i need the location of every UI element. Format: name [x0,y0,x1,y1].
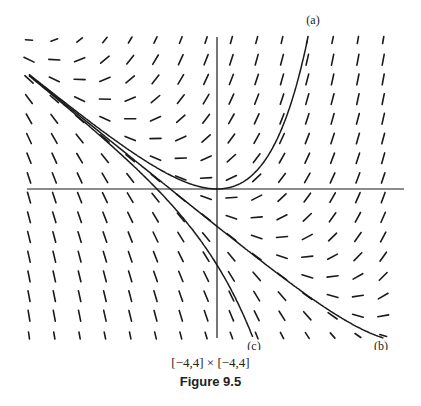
slope-mark [378,315,389,317]
slope-mark [382,133,385,144]
slope-mark [201,196,211,200]
slope-mark [305,133,309,143]
slope-mark [353,274,363,279]
slope-mark [103,251,106,262]
slope-mark [355,213,360,223]
slope-mark [27,153,31,163]
slope-mark [280,134,285,144]
slope-mark [127,174,134,183]
slope-mark [251,217,262,218]
slope-mark [328,254,338,259]
slope-mark [279,311,285,320]
slope-mark [203,114,210,123]
slope-mark [331,114,334,125]
slope-mark [229,272,235,281]
slope-mark [356,193,360,203]
slope-mark [353,314,364,317]
slope-mark [102,173,108,182]
slope-mark [49,77,59,82]
slope-mark [204,291,208,301]
slope-mark [382,54,384,65]
slope-mark [281,74,284,85]
slope-mark [26,114,31,124]
slope-mark [381,232,386,242]
slope-mark [151,117,161,121]
slope-mark [357,37,358,44]
slope-mark [382,173,385,183]
slope-mark [180,37,183,44]
slope-mark [254,134,259,144]
slope-mark [77,173,82,183]
slope-mark [179,311,182,322]
slope-mark [78,232,81,243]
slope-mark [277,215,287,220]
slope-mark [49,59,60,60]
curve-label-b: (b) [374,339,388,350]
slope-mark [355,233,361,242]
slope-mark [254,311,259,321]
slope-mark [179,55,184,65]
slope-mark [178,252,183,262]
slope-mark [329,233,337,241]
slope-mark [100,77,110,81]
solution-curve-b [29,75,383,338]
slope-mark [178,232,184,241]
slope-mark [382,113,384,124]
slope-mark [357,114,360,125]
slope-mark [228,134,235,143]
slope-mark [152,75,159,84]
slope-mark [382,153,385,164]
slope-mark [155,332,157,339]
slope-mark [202,135,210,142]
slope-mark [279,153,284,163]
slope-mark [382,74,384,85]
slope-mark [79,332,80,339]
slope-mark [128,37,132,43]
slope-mark [53,271,55,282]
slope-mark [329,213,335,222]
slope-mark [203,233,210,241]
slope-mark [226,216,236,220]
slope-mark [304,193,310,202]
slope-mark [53,251,56,262]
slope-mark [357,74,359,85]
slope-mark [205,37,207,44]
slope-mark [154,37,157,43]
slope-mark [278,292,285,300]
slope-mark [306,54,308,65]
slope-mark [104,310,106,321]
slope-mark [128,232,132,242]
slope-mark [129,291,132,302]
slope-mark [305,153,310,163]
slope-mark [253,154,260,163]
slope-mark [302,275,313,278]
slope-mark [150,156,160,160]
window-range-label: [−4,4] × [−4,4] [0,355,421,371]
slope-mark [331,153,335,163]
slope-mark [380,335,387,337]
slope-mark [328,313,337,319]
slope-mark [78,291,80,302]
slope-mark [103,232,107,242]
slope-mark [277,237,288,238]
slope-mark [24,57,34,62]
slope-mark [54,332,55,339]
slope-mark [53,291,55,302]
slope-mark [179,291,183,301]
slope-mark [104,291,107,302]
slope-mark [256,37,258,44]
slope-field-plot: (a) (b) (c) [0,0,421,350]
slope-mark [356,153,359,163]
slope-mark [125,97,135,101]
slope-mark [79,310,81,321]
slope-mark [356,173,360,183]
slope-mark [205,332,207,339]
slope-mark [204,272,209,282]
slope-mark [179,271,183,281]
slope-mark [228,253,235,261]
slope-mark [28,291,30,302]
slope-mark [254,114,259,124]
slope-mark [129,271,132,282]
slope-mark [130,332,131,339]
slope-mark [101,56,109,63]
